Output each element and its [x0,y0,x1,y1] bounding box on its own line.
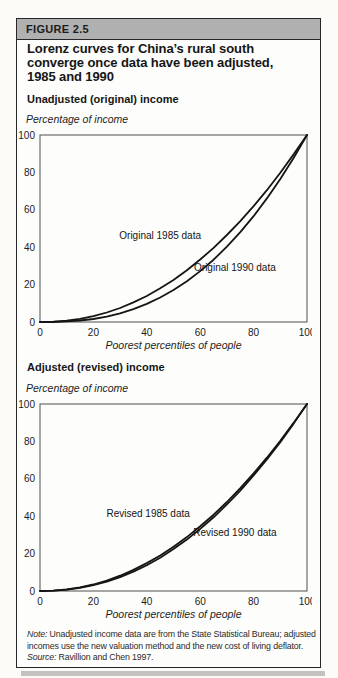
y-axis-title-unadjusted: Percentage of income [26,113,226,125]
figure-title: Lorenz curves for China’s rural south co… [27,42,317,85]
unadjusted-lorenz-chart: 020406080100020406080100Original 1985 da… [16,131,312,353]
note-label: Note: [27,629,47,639]
x-tick-label: 0 [37,596,43,607]
x-axis-title: Poorest percentiles of people [105,608,241,620]
original-1985-data-curve [40,135,307,322]
x-tick-label: 40 [141,327,153,338]
y-tick-label: 0 [29,586,35,597]
y-tick-label: 100 [18,131,35,141]
y-tick-label: 80 [24,167,36,178]
section-heading-unadjusted: Unadjusted (original) income [27,93,307,105]
y-tick-label: 20 [24,548,36,559]
source-text: Ravillion and Chen 1997. [56,652,153,662]
note-text: Unadjusted income data are from the Stat… [27,629,316,651]
y-tick-label: 0 [29,317,35,328]
y-tick-label: 80 [24,436,36,447]
figure-note: Note: Unadjusted income data are from th… [27,629,319,664]
x-tick-label: 80 [248,596,260,607]
plot-frame [40,404,307,591]
y-tick-label: 100 [18,400,35,410]
figure-tag: FIGURE 2.5 [17,23,89,35]
x-tick-label: 100 [299,327,312,338]
figure-title-line-2: converge once data have been adjusted, [27,56,317,70]
y-tick-label: 60 [24,204,36,215]
plot-frame [40,135,307,322]
x-tick-label: 100 [299,596,312,607]
revised-1985-data-label: Revised 1985 data [106,508,190,519]
figure-title-line-1: Lorenz curves for China’s rural south [27,42,317,56]
x-tick-label: 20 [88,596,100,607]
x-tick-label: 80 [248,327,260,338]
figure-title-line-3: 1985 and 1990 [27,70,317,84]
original-1985-data-label: Original 1985 data [119,230,201,241]
x-tick-label: 0 [37,327,43,338]
page-scan-shadow [21,671,325,677]
y-tick-label: 40 [24,511,36,522]
y-axis-title-adjusted: Percentage of income [26,382,226,394]
scanned-figure-page: FIGURE 2.5 Lorenz curves for China’s rur… [0,0,338,678]
original-1990-data-curve [40,135,307,322]
source-label: Source: [27,652,56,662]
revised-1990-data-curve [40,404,307,591]
note-line: Note: Unadjusted income data are from th… [27,629,319,652]
x-tick-label: 60 [195,596,207,607]
revised-1985-data-curve [40,404,307,591]
y-tick-label: 60 [24,473,36,484]
x-tick-label: 20 [88,327,100,338]
y-tick-label: 40 [24,242,36,253]
adjusted-lorenz-chart: 020406080100020406080100Revised 1985 dat… [16,400,312,622]
section-heading-adjusted: Adjusted (revised) income [27,361,307,373]
original-1990-data-label: Original 1990 data [194,262,276,273]
y-tick-label: 20 [24,279,36,290]
x-tick-label: 40 [141,596,153,607]
figure-band: FIGURE 2.5 [17,19,320,40]
revised-1990-data-label: Revised 1990 data [193,527,277,538]
x-axis-title: Poorest percentiles of people [105,339,241,351]
source-line: Source: Ravillion and Chen 1997. [27,652,319,664]
x-tick-label: 60 [195,327,207,338]
